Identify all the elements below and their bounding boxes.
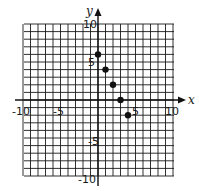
data-point (95, 51, 101, 57)
y-tick-label: 10 (83, 18, 97, 31)
x-tick-label: 5 (132, 105, 139, 118)
y-tick-label: -5 (88, 135, 99, 148)
data-point (117, 97, 123, 103)
x-axis-arrow-icon (178, 97, 186, 104)
x-tick-label: 10 (165, 105, 179, 118)
y-axis-label: y (85, 4, 93, 18)
x-tick-label: -10 (12, 105, 30, 118)
data-point (125, 112, 131, 118)
data-point (110, 82, 116, 88)
y-tick-label: -10 (78, 173, 96, 186)
x-tick-label: -5 (53, 105, 64, 118)
coordinate-plane: x y -10 -5 5 10 10 5 -5 -10 (0, 0, 199, 191)
data-point (102, 66, 108, 72)
y-axis-arrow-icon (95, 8, 102, 16)
y-tick-label: 5 (88, 56, 95, 69)
x-axis-label: x (188, 93, 195, 107)
